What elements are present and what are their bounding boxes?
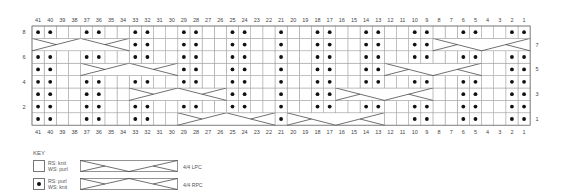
stitch-cell (117, 51, 129, 63)
stitch-cell (287, 100, 299, 112)
purl-dot-icon (133, 55, 137, 59)
column-number: 19 (302, 17, 308, 23)
stitch-cell (336, 76, 348, 88)
stitch-cell (117, 113, 129, 125)
stitch-cell (202, 100, 214, 112)
stitch-cell (433, 113, 445, 125)
stitch-cell (433, 100, 445, 112)
purl-dot-icon (413, 55, 417, 59)
column-number: 31 (157, 129, 163, 135)
column-number: 9 (425, 17, 428, 23)
purl-dot-icon (97, 80, 101, 84)
column-number: 21 (278, 17, 284, 23)
stitch-cell (105, 26, 117, 38)
column-number: 33 (132, 17, 138, 23)
stitch-cell (348, 51, 360, 63)
stitch-cell (56, 26, 68, 38)
purl-dot-icon (279, 80, 283, 84)
stitch-cell (68, 100, 80, 112)
stitch-cell (494, 76, 506, 88)
purl-dot-icon (510, 92, 514, 96)
stitch-cell (445, 51, 457, 63)
purl-dot-icon (243, 80, 247, 84)
purl-dot-icon (231, 68, 235, 72)
purl-dot-icon (97, 30, 101, 34)
purl-dot-icon (364, 105, 368, 109)
stitch-cell (287, 26, 299, 38)
key-purl-label: RS: purl WS: knit (48, 178, 67, 190)
key-purl-ws: WS: knit (48, 184, 67, 190)
purl-dot-icon (510, 117, 514, 121)
purl-dot-icon (328, 105, 332, 109)
purl-dot-icon (36, 55, 40, 59)
purl-dot-icon (510, 68, 514, 72)
row-number: 8 (22, 29, 25, 35)
purl-dot-icon (243, 92, 247, 96)
column-number: 28 (193, 17, 199, 23)
column-number: 6 (462, 17, 465, 23)
purl-dot-icon (316, 55, 320, 59)
purl-dot-icon (425, 80, 429, 84)
stitch-cell (482, 100, 494, 112)
stitch-cell (154, 51, 166, 63)
row-number: 5 (536, 66, 539, 72)
purl-dot-icon (48, 80, 52, 84)
purl-dot-icon (182, 55, 186, 59)
column-number: 28 (193, 129, 199, 135)
purl-dot-icon (231, 43, 235, 47)
column-number: 10 (412, 17, 418, 23)
stitch-cell (56, 63, 68, 75)
stitch-cell (154, 38, 166, 50)
stitch-cell (202, 26, 214, 38)
stitch-cell (445, 113, 457, 125)
purl-dot-icon (182, 43, 186, 47)
purl-dot-icon (461, 117, 465, 121)
column-number: 13 (375, 129, 381, 135)
stitch-cell (117, 76, 129, 88)
purl-dot-icon (243, 68, 247, 72)
stitch-cell (68, 26, 80, 38)
purl-dot-icon (194, 105, 198, 109)
purl-dot-icon (231, 30, 235, 34)
column-number: 35 (108, 129, 114, 135)
column-number: 15 (351, 17, 357, 23)
stitch-cell (263, 88, 275, 100)
purl-dot-icon (425, 43, 429, 47)
purl-dot-icon (146, 105, 150, 109)
stitch-cell (105, 88, 117, 100)
purl-dot-icon (48, 117, 52, 121)
stitch-cell (56, 51, 68, 63)
purl-dot-icon (182, 30, 186, 34)
stitch-cell (384, 76, 396, 88)
column-number: 20 (290, 129, 296, 135)
column-number: 31 (157, 17, 163, 23)
purl-dot-icon (364, 30, 368, 34)
stitch-cell (348, 38, 360, 50)
stitch-cell (166, 76, 178, 88)
column-number: 27 (205, 129, 211, 135)
stitch-cell (68, 88, 80, 100)
purl-dot-icon (279, 30, 283, 34)
purl-dot-icon (146, 43, 150, 47)
cable-lpc-icon (336, 88, 433, 100)
purl-dot-icon (328, 43, 332, 47)
key-knit-ws: WS: purl (48, 166, 68, 172)
purl-dot-icon (522, 117, 526, 121)
purl-dot-icon (36, 92, 40, 96)
stitch-cell (202, 38, 214, 50)
stitch-cell (202, 76, 214, 88)
stitch-cell (263, 76, 275, 88)
column-number: 14 (363, 129, 369, 135)
stitch-cell (166, 26, 178, 38)
purl-dot-icon (231, 92, 235, 96)
purl-dot-icon (413, 43, 417, 47)
stitch-cell (445, 88, 457, 100)
stitch-cell (299, 63, 311, 75)
column-number: 40 (47, 17, 53, 23)
stitch-cell (251, 88, 263, 100)
stitch-cell (214, 100, 226, 112)
stitch-cell (263, 26, 275, 38)
column-number: 22 (266, 129, 272, 135)
stitch-cell (384, 26, 396, 38)
stitch-cell (214, 76, 226, 88)
